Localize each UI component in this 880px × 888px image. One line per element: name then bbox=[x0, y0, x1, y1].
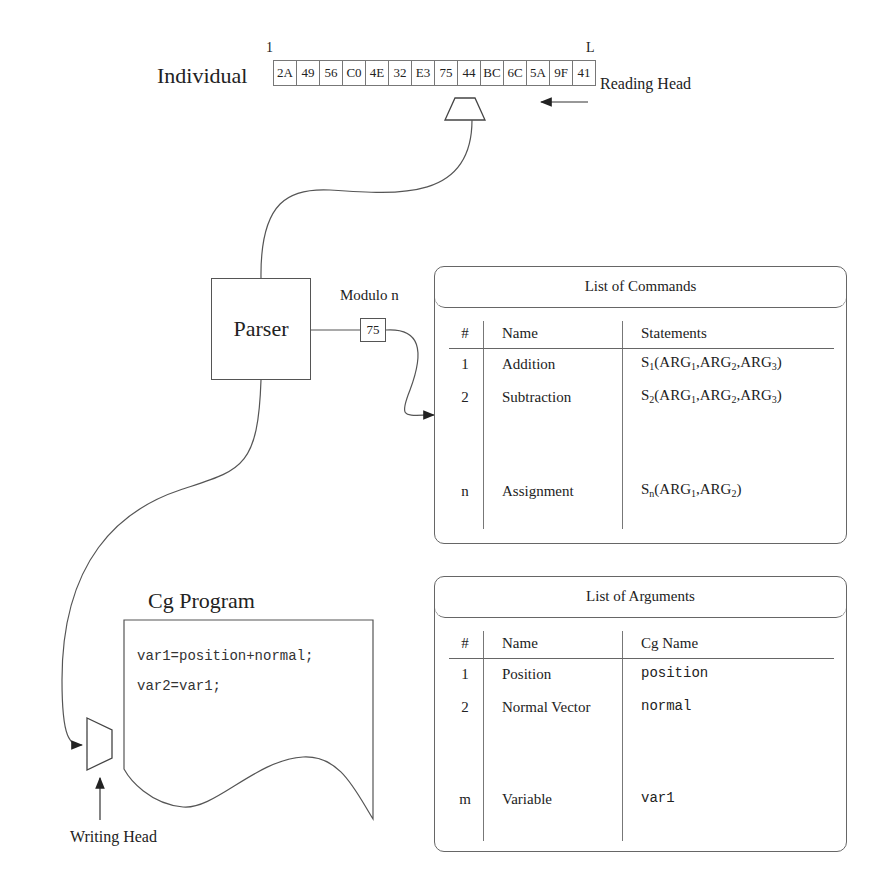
header-divider bbox=[449, 658, 834, 659]
reading-head-icon bbox=[445, 98, 485, 120]
code-line-1: var1=position+normal; bbox=[137, 648, 313, 664]
gene-cell: BC bbox=[481, 61, 504, 85]
argument-row-name: Normal Vector bbox=[502, 699, 590, 716]
column-divider bbox=[622, 631, 623, 841]
argument-row-cg-name: position bbox=[641, 665, 708, 681]
command-row-statement: S1(ARG1,ARG2,ARG3) bbox=[641, 354, 782, 372]
command-row-statement: Sn(ARG1,ARG2) bbox=[641, 481, 741, 499]
argument-row-name: Position bbox=[502, 666, 551, 683]
gene-cell: 41 bbox=[573, 61, 595, 85]
header-statements: Statements bbox=[641, 325, 707, 342]
argument-row-num: 1 bbox=[447, 666, 483, 683]
command-row-name: Subtraction bbox=[502, 389, 571, 406]
gene-cell: 75 bbox=[435, 61, 458, 85]
writing-head-label: Writing Head bbox=[70, 828, 157, 846]
genome-strip: 2A4956C04E32E37544BC6C5A9F41 bbox=[273, 60, 596, 86]
column-divider bbox=[483, 321, 484, 529]
commands-title: List of Commands bbox=[435, 267, 846, 308]
gene-cell: 2A bbox=[274, 61, 297, 85]
header-divider bbox=[449, 348, 834, 349]
header-cg-name: Cg Name bbox=[641, 635, 698, 652]
modulo-label: Modulo n bbox=[340, 287, 399, 304]
parser-label: Parser bbox=[234, 316, 289, 342]
command-row-name: Addition bbox=[502, 356, 555, 373]
gene-cell: 9F bbox=[550, 61, 573, 85]
argument-row-name: Variable bbox=[502, 791, 552, 808]
reading-head-label: Reading Head bbox=[600, 75, 691, 93]
gene-cell: 49 bbox=[297, 61, 320, 85]
gene-cell: 44 bbox=[458, 61, 481, 85]
modulo-value-box: 75 bbox=[360, 318, 386, 342]
parser-box: Parser bbox=[211, 278, 311, 380]
gene-cell: 5A bbox=[527, 61, 550, 85]
commands-table: List of Commands # Name Statements 1Addi… bbox=[434, 266, 847, 544]
gene-cell: 4E bbox=[366, 61, 389, 85]
individual-label: Individual bbox=[157, 63, 247, 89]
argument-row-num: 2 bbox=[447, 699, 483, 716]
index-last-label: L bbox=[586, 40, 595, 56]
command-row-num: n bbox=[447, 483, 483, 500]
argument-row-num: m bbox=[447, 791, 483, 808]
header-num: # bbox=[447, 325, 483, 342]
gene-cell: 6C bbox=[504, 61, 527, 85]
header-num: # bbox=[447, 635, 483, 652]
gene-cell: 56 bbox=[320, 61, 343, 85]
index-first-label: 1 bbox=[266, 40, 273, 56]
arguments-title: List of Arguments bbox=[435, 577, 846, 618]
gene-cell: 32 bbox=[389, 61, 412, 85]
code-line-2: var2=var1; bbox=[137, 678, 221, 694]
header-name: Name bbox=[502, 325, 538, 342]
command-row-num: 1 bbox=[447, 356, 483, 373]
arguments-table: List of Arguments # Name Cg Name 1Positi… bbox=[434, 576, 847, 852]
cg-program-title: Cg Program bbox=[148, 588, 255, 614]
column-divider bbox=[483, 631, 484, 841]
argument-row-cg-name: var1 bbox=[641, 790, 675, 806]
command-row-num: 2 bbox=[447, 389, 483, 406]
command-row-statement: S2(ARG1,ARG2,ARG3) bbox=[641, 387, 782, 405]
command-row-name: Assignment bbox=[502, 483, 574, 500]
argument-row-cg-name: normal bbox=[641, 698, 691, 714]
writing-head-icon bbox=[87, 718, 112, 770]
gene-cell: E3 bbox=[412, 61, 435, 85]
header-name: Name bbox=[502, 635, 538, 652]
column-divider bbox=[622, 321, 623, 529]
gene-cell: C0 bbox=[343, 61, 366, 85]
